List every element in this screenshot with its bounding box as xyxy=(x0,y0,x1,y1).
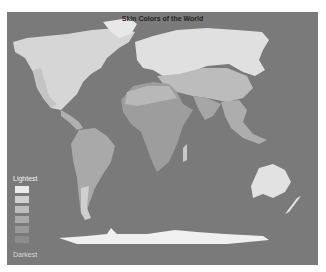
region-antarctica xyxy=(59,228,269,244)
legend-swatch-5 xyxy=(15,226,29,233)
region-madagascar xyxy=(183,144,187,162)
legend-swatch-6 xyxy=(15,236,29,243)
region-new-zealand xyxy=(285,196,301,214)
legend-darkest-label: Darkest xyxy=(13,251,37,258)
region-central-america xyxy=(61,110,83,130)
region-australia xyxy=(251,164,291,198)
legend-swatch-2 xyxy=(15,196,29,203)
map-title: Skin Colors of the World xyxy=(7,15,318,22)
legend-swatch-4 xyxy=(15,216,29,223)
legend-lightest-label: Lightest xyxy=(13,175,38,182)
legend-swatch-3 xyxy=(15,206,29,213)
legend-swatch-1 xyxy=(15,186,29,193)
region-north-america xyxy=(13,28,135,110)
region-southeast-asia xyxy=(221,100,267,144)
map-canvas xyxy=(7,12,318,265)
region-south-america xyxy=(71,128,115,218)
world-map: Skin Colors of the World Lightest Darkes… xyxy=(7,12,318,265)
